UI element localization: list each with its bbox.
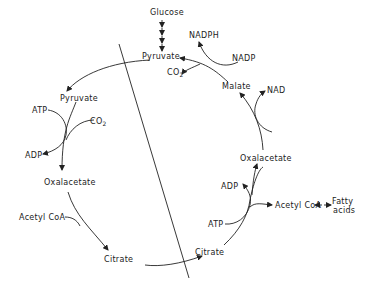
- pathway-diagram: Glucose Pyruvate NADPH NADP CO2 Malate N…: [0, 0, 367, 290]
- label-fatty-acids-2: acids: [333, 206, 355, 215]
- membrane-line: [119, 44, 189, 278]
- label-oxalacetate-right: Oxalacetate: [240, 154, 292, 163]
- label-nadp: NADP: [232, 54, 256, 63]
- label-glucose: Glucose: [150, 8, 184, 17]
- label-adp-right: ADP: [221, 182, 238, 191]
- label-atp-right: ATP: [208, 220, 223, 229]
- label-adp-left: ADP: [25, 151, 42, 160]
- label-pyruvate-left: Pyruvate: [60, 94, 98, 103]
- label-malate: Malate: [222, 82, 251, 91]
- label-citrate-right: Citrate: [195, 248, 224, 257]
- label-pyruvate-right: Pyruvate: [142, 52, 180, 61]
- label-fatty-acids-1: Fatty: [332, 197, 353, 206]
- label-co2-right: CO2: [167, 68, 184, 79]
- label-nad: NAD: [267, 86, 286, 95]
- label-nadph: NADPH: [189, 31, 219, 40]
- label-co2-left: CO2: [90, 117, 107, 128]
- label-acetyl-coa-left: Acetyl CoA: [19, 213, 65, 222]
- label-atp-left: ATP: [32, 106, 47, 115]
- label-citrate-left: Citrate: [104, 255, 133, 264]
- pathway-lines: [0, 0, 367, 290]
- label-oxalacetate-left: Oxalacetate: [44, 178, 96, 187]
- label-acetyl-coa-right: Acetyl CoA: [275, 201, 321, 210]
